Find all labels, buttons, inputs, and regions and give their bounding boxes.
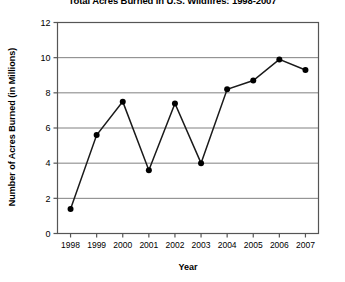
x-tick-label: 1999 [87, 240, 106, 250]
data-point-marker [120, 99, 126, 105]
data-point-marker [224, 86, 230, 92]
y-tick-label: 6 [45, 123, 50, 133]
y-tick-label: 12 [40, 18, 50, 28]
y-tick-label: 0 [45, 229, 50, 239]
x-tick-label: 2005 [244, 240, 263, 250]
y-tick-label: 10 [40, 53, 50, 63]
x-tick-label: 2007 [296, 240, 315, 250]
data-point-marker [94, 132, 100, 138]
data-point-marker [250, 78, 256, 84]
data-point-marker [276, 56, 282, 62]
x-tick-label: 2006 [270, 240, 289, 250]
data-point-marker [302, 67, 308, 73]
x-tick-label: 2000 [113, 240, 132, 250]
gridlines [58, 58, 319, 199]
y-tick-label: 4 [45, 158, 50, 168]
x-tick-label: 2001 [139, 240, 158, 250]
plot-area: 024681012 199819992000200120022003200420… [0, 0, 345, 282]
x-axis-ticks: 1998199920002001200220032004200520062007 [61, 234, 315, 250]
x-tick-label: 1998 [61, 240, 80, 250]
line-chart: Total Acres Burned in U.S. Wildfires: 19… [0, 0, 345, 282]
y-tick-label: 2 [45, 194, 50, 204]
x-tick-label: 2003 [192, 240, 211, 250]
y-axis-ticks: 024681012 [40, 18, 57, 239]
data-point-marker [172, 100, 178, 106]
data-point-marker [146, 167, 152, 173]
y-tick-label: 8 [45, 88, 50, 98]
data-point-marker [198, 160, 204, 166]
x-axis-title: Year [57, 262, 319, 272]
data-point-marker [68, 206, 74, 212]
series-polyline [71, 59, 306, 208]
x-tick-label: 2004 [218, 240, 237, 250]
data-line [71, 59, 306, 208]
x-tick-label: 2002 [165, 240, 184, 250]
